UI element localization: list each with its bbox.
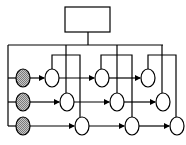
- node: [170, 117, 184, 135]
- network-diagram: [0, 0, 186, 145]
- node: [110, 93, 124, 111]
- node: [95, 69, 109, 87]
- source-node: [16, 69, 30, 87]
- node: [60, 93, 74, 111]
- source-node: [16, 93, 30, 111]
- node: [75, 117, 89, 135]
- node: [45, 69, 59, 87]
- top-box: [65, 7, 110, 32]
- source-node: [16, 117, 30, 135]
- node: [141, 69, 155, 87]
- node: [125, 117, 139, 135]
- node: [156, 93, 170, 111]
